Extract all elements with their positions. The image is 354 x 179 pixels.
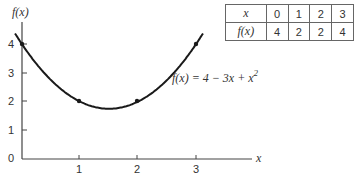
table-header-fx: f(x) (226, 23, 267, 41)
table-row-x: x 0 1 2 3 (226, 5, 354, 23)
point-0-4 (20, 42, 24, 46)
y-tick-label-1: 1 (8, 124, 14, 136)
table-cell: 2 (310, 23, 332, 41)
equation-text: f(x) = 4 − 3x + x (172, 71, 254, 85)
table-cell: 1 (288, 5, 310, 23)
value-table: x 0 1 2 3 f(x) 4 2 2 4 (225, 4, 354, 41)
origin-label: 0 (8, 152, 14, 164)
point-3-4 (194, 42, 198, 46)
table-cell: 2 (310, 5, 332, 23)
table-cell: 3 (332, 5, 354, 23)
y-tick-label-4: 4 (8, 38, 14, 50)
table-header-x: x (226, 5, 267, 23)
x-tick-label-3: 3 (193, 163, 199, 175)
point-2-2 (135, 99, 139, 103)
x-tick-label-1: 1 (76, 163, 82, 175)
y-tick-label-3: 3 (8, 67, 14, 79)
equation-exponent: 2 (254, 68, 259, 78)
y-axis-label: f(x) (12, 5, 29, 19)
table-cell: 2 (288, 23, 310, 41)
equation-label: f(x) = 4 − 3x + x2 (172, 68, 259, 85)
table-cell: 0 (266, 5, 288, 23)
y-tick-label-2: 2 (8, 95, 14, 107)
table-cell: 4 (266, 23, 288, 41)
x-axis-label: x (255, 151, 262, 165)
table-cell: 4 (332, 23, 354, 41)
x-tick-label-2: 2 (134, 163, 140, 175)
table-row-fx: f(x) 4 2 2 4 (226, 23, 354, 41)
point-1-2 (77, 99, 81, 103)
